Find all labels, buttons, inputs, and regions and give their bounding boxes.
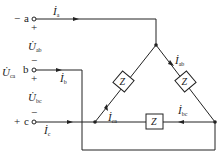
impedance-bc: Z xyxy=(146,114,163,129)
sign-c-plus: + xyxy=(14,115,20,127)
svg-text:Z: Z xyxy=(182,76,188,87)
node-right xyxy=(213,120,217,124)
label-ubc: U̇bc xyxy=(28,91,42,104)
arrow-ic-icon xyxy=(67,120,73,124)
sign-a-minus: − xyxy=(14,12,20,24)
sign-b-plus: + xyxy=(31,72,37,84)
delta-circuit-diagram: Z Z Z − a + b − + + c − İa İb İc U̇ab U̇… xyxy=(0,0,224,161)
impedance-ca: Z xyxy=(113,71,134,92)
arrow-ia-icon xyxy=(73,17,79,21)
label-ic: İc xyxy=(43,124,51,137)
svg-text:Z: Z xyxy=(151,116,157,127)
label-uab: U̇ab xyxy=(28,40,42,53)
sign-c-minus: − xyxy=(31,106,37,118)
label-iab: İab xyxy=(174,54,184,67)
sign-a-plus: + xyxy=(31,21,37,33)
label-uca: U̇ca xyxy=(2,66,16,79)
label-a: a xyxy=(24,12,29,24)
sign-b-minus: − xyxy=(31,54,37,66)
label-c: c xyxy=(24,115,29,127)
arrow-ibc-icon xyxy=(178,120,184,124)
label-ica: İca xyxy=(107,111,117,124)
label-b: b xyxy=(23,63,29,75)
svg-text:Z: Z xyxy=(120,76,126,87)
label-ia: İa xyxy=(52,5,60,18)
node-left xyxy=(93,120,97,124)
node-top xyxy=(154,43,158,47)
label-ib: İb xyxy=(59,72,67,85)
label-ibc: İbc xyxy=(177,104,188,117)
terminal-c xyxy=(32,120,36,124)
